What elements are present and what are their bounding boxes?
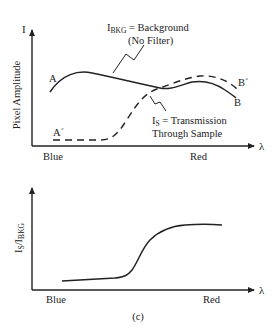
top-x-label-blue: Blue <box>43 151 63 162</box>
bottom-x-label-blue: Blue <box>46 294 66 305</box>
bottom-x-label-red: Red <box>203 294 221 305</box>
diagram-canvas: I Pixel Amplitude λ Blue Red A B A´ B´ I… <box>0 0 280 336</box>
label-B-prime: B´ <box>238 77 249 88</box>
background-annotation-line2: (No Filter) <box>128 35 174 47</box>
sample-leader-line <box>150 96 166 111</box>
top-y-axis-symbol: I <box>22 23 26 35</box>
bottom-y-axis-label: IS/IBKG <box>13 222 26 253</box>
background-annotation-line1: IBKG = Background <box>107 22 190 35</box>
bottom-x-axis-symbol: λ <box>259 284 265 296</box>
sample-annotation-line2: Through Sample <box>152 128 223 139</box>
ratio-curve <box>62 224 222 281</box>
top-y-axis-label: Pixel Amplitude <box>11 60 22 129</box>
figure-caption: (c) <box>132 311 144 323</box>
sample-annotation-line1: IS = Transmission <box>152 115 228 128</box>
label-A-prime: A´ <box>53 127 64 138</box>
label-A: A <box>49 73 57 84</box>
background-leader-line <box>113 45 144 73</box>
background-curve <box>50 72 236 98</box>
top-x-label-red: Red <box>190 151 208 162</box>
bottom-graph: λ Blue Red IS/IBKG <box>13 188 265 305</box>
label-B: B <box>234 97 241 108</box>
top-graph: I Pixel Amplitude λ Blue Red A B A´ B´ I… <box>11 22 265 162</box>
top-x-axis-symbol: λ <box>259 140 265 152</box>
